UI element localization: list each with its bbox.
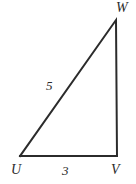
vertex-label-v: V	[111, 163, 120, 177]
geometry-figure: W U V 5 3	[0, 0, 136, 184]
vertex-label-u: U	[11, 163, 21, 177]
side-length-label-hypotenuse: 5	[46, 79, 53, 92]
side-length-label-base: 3	[62, 164, 69, 177]
vertex-label-w: W	[116, 1, 128, 15]
triangle-shape	[0, 0, 136, 184]
triangle-outline	[20, 20, 117, 156]
